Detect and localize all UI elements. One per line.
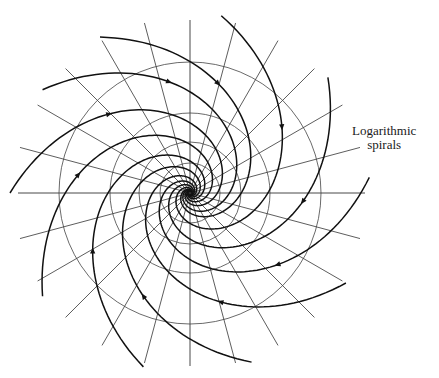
arrowhead-icon [275, 261, 282, 266]
spirals-label: Logarithmic spirals [352, 124, 416, 152]
logarithmic-spiral-diagram [0, 0, 439, 378]
arrowhead-icon [165, 78, 172, 83]
spiral-curve [146, 176, 346, 307]
arrowhead-icon [279, 124, 284, 130]
label-line-2: spirals [352, 138, 416, 152]
label-line-1: Logarithmic [352, 124, 416, 138]
arrowhead-icon [301, 198, 307, 204]
